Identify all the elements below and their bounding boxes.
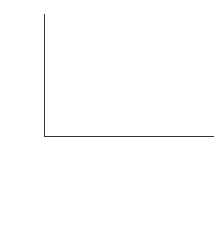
y-axis (44, 14, 45, 136)
x-axis (44, 136, 214, 137)
